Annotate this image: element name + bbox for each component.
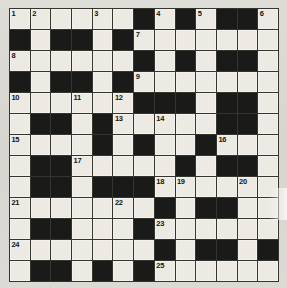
crossword-cell-open[interactable]: 2 (30, 9, 51, 30)
crossword-cell-open[interactable] (51, 51, 72, 72)
crossword-cell-open[interactable]: 23 (154, 219, 175, 240)
crossword-cell-open[interactable] (216, 30, 237, 51)
crossword-cell-open[interactable] (113, 51, 134, 72)
crossword-cell-open[interactable] (258, 156, 279, 177)
crossword-cell-open[interactable] (72, 240, 93, 261)
crossword-cell-open[interactable] (72, 219, 93, 240)
crossword-cell-open[interactable] (72, 177, 93, 198)
crossword-cell-open[interactable] (10, 156, 31, 177)
crossword-cell-open[interactable] (196, 177, 217, 198)
crossword-cell-open[interactable] (237, 135, 258, 156)
crossword-cell-open[interactable] (30, 198, 51, 219)
crossword-cell-open[interactable] (10, 177, 31, 198)
crossword-cell-open[interactable] (258, 261, 279, 282)
crossword-cell-open[interactable] (92, 51, 113, 72)
crossword-cell-open[interactable] (72, 198, 93, 219)
crossword-cell-open[interactable] (196, 72, 217, 93)
crossword-cell-open[interactable] (175, 72, 196, 93)
crossword-cell-open[interactable] (113, 261, 134, 282)
crossword-cell-open[interactable] (92, 93, 113, 114)
crossword-cell-open[interactable] (10, 114, 31, 135)
crossword-cell-open[interactable] (175, 135, 196, 156)
crossword-cell-open[interactable] (196, 219, 217, 240)
crossword-cell-open[interactable] (175, 240, 196, 261)
crossword-cell-open[interactable] (154, 72, 175, 93)
crossword-cell-open[interactable] (72, 9, 93, 30)
crossword-cell-open[interactable]: 1 (10, 9, 31, 30)
crossword-cell-open[interactable] (216, 261, 237, 282)
crossword-cell-open[interactable] (113, 240, 134, 261)
crossword-cell-open[interactable] (175, 114, 196, 135)
crossword-cell-open[interactable] (51, 198, 72, 219)
crossword-cell-open[interactable] (51, 9, 72, 30)
crossword-cell-open[interactable] (196, 261, 217, 282)
crossword-cell-open[interactable] (237, 219, 258, 240)
crossword-cell-open[interactable] (134, 240, 155, 261)
crossword-cell-open[interactable]: 25 (154, 261, 175, 282)
crossword-cell-open[interactable]: 18 (154, 177, 175, 198)
crossword-cell-open[interactable]: 19 (175, 177, 196, 198)
crossword-cell-open[interactable] (92, 240, 113, 261)
crossword-cell-open[interactable] (134, 198, 155, 219)
crossword-cell-open[interactable] (30, 135, 51, 156)
crossword-cell-open[interactable] (72, 51, 93, 72)
crossword-cell-open[interactable]: 11 (72, 93, 93, 114)
crossword-cell-open[interactable] (10, 219, 31, 240)
crossword-cell-open[interactable]: 21 (10, 198, 31, 219)
crossword-cell-open[interactable]: 5 (196, 9, 217, 30)
crossword-cell-open[interactable] (51, 93, 72, 114)
crossword-cell-open[interactable] (258, 93, 279, 114)
crossword-cell-open[interactable] (134, 114, 155, 135)
crossword-cell-open[interactable] (72, 114, 93, 135)
crossword-cell-open[interactable] (196, 51, 217, 72)
crossword-cell-open[interactable] (237, 198, 258, 219)
crossword-cell-open[interactable]: 17 (72, 156, 93, 177)
crossword-cell-open[interactable] (258, 198, 279, 219)
crossword-cell-open[interactable] (196, 114, 217, 135)
crossword-cell-open[interactable] (258, 177, 279, 198)
crossword-cell-open[interactable] (237, 240, 258, 261)
crossword-cell-open[interactable]: 6 (258, 9, 279, 30)
crossword-cell-open[interactable] (92, 30, 113, 51)
crossword-cell-open[interactable] (175, 30, 196, 51)
crossword-cell-open[interactable]: 12 (113, 93, 134, 114)
crossword-cell-open[interactable] (175, 261, 196, 282)
crossword-cell-open[interactable] (113, 156, 134, 177)
crossword-cell-open[interactable] (258, 114, 279, 135)
crossword-cell-open[interactable] (92, 219, 113, 240)
crossword-cell-open[interactable] (92, 156, 113, 177)
crossword-cell-open[interactable] (216, 219, 237, 240)
crossword-cell-open[interactable] (237, 72, 258, 93)
crossword-cell-open[interactable] (113, 9, 134, 30)
crossword-cell-open[interactable] (30, 30, 51, 51)
crossword-cell-open[interactable] (196, 30, 217, 51)
crossword-cell-open[interactable] (216, 72, 237, 93)
crossword-cell-open[interactable] (154, 156, 175, 177)
crossword-cell-open[interactable]: 14 (154, 114, 175, 135)
crossword-cell-open[interactable] (216, 177, 237, 198)
crossword-cell-open[interactable]: 4 (154, 9, 175, 30)
crossword-cell-open[interactable] (154, 30, 175, 51)
crossword-cell-open[interactable] (134, 156, 155, 177)
crossword-cell-open[interactable] (92, 198, 113, 219)
crossword-cell-open[interactable] (30, 72, 51, 93)
crossword-cell-open[interactable] (258, 219, 279, 240)
crossword-cell-open[interactable] (92, 72, 113, 93)
crossword-cell-open[interactable] (154, 51, 175, 72)
crossword-cell-open[interactable] (30, 93, 51, 114)
crossword-cell-open[interactable]: 20 (237, 177, 258, 198)
crossword-cell-open[interactable]: 15 (10, 135, 31, 156)
crossword-cell-open[interactable] (237, 261, 258, 282)
crossword-cell-open[interactable] (175, 219, 196, 240)
crossword-cell-open[interactable] (237, 30, 258, 51)
crossword-cell-open[interactable] (113, 135, 134, 156)
crossword-cell-open[interactable]: 7 (134, 30, 155, 51)
crossword-cell-open[interactable] (196, 156, 217, 177)
crossword-cell-open[interactable]: 3 (92, 9, 113, 30)
crossword-cell-open[interactable]: 16 (216, 135, 237, 156)
crossword-cell-open[interactable] (258, 30, 279, 51)
crossword-cell-open[interactable]: 13 (113, 114, 134, 135)
crossword-cell-open[interactable] (196, 93, 217, 114)
crossword-cell-open[interactable] (51, 240, 72, 261)
crossword-cell-open[interactable] (258, 72, 279, 93)
